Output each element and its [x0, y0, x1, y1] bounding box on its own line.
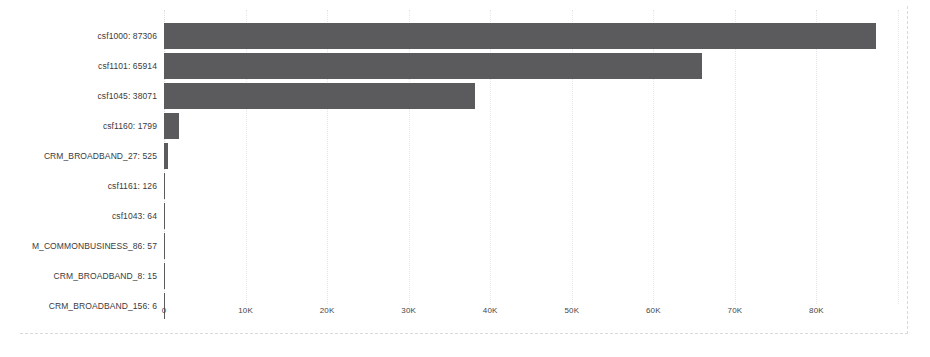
bar-row[interactable]: csf1101: 65914: [0, 53, 930, 79]
x-tick-label: 20K: [302, 306, 352, 315]
bar-label: csf1045: 38071: [0, 83, 157, 109]
x-tick-label: 70K: [710, 306, 760, 315]
bar[interactable]: [164, 173, 165, 199]
bar-label: csf1101: 65914: [0, 53, 157, 79]
bar-row[interactable]: CRM_BROADBAND_27: 525: [0, 143, 930, 169]
bar-row[interactable]: CRM_BROADBAND_8: 15: [0, 263, 930, 289]
x-tick-label: 60K: [628, 306, 678, 315]
bar-label: csf1000: 87306: [0, 23, 157, 49]
bar-chart-screenshot: csf1000: 87306csf1101: 65914csf1045: 380…: [0, 0, 930, 357]
bar-label: csf1043: 64: [0, 203, 157, 229]
bar-label: csf1160: 1799: [0, 113, 157, 139]
bar[interactable]: [164, 83, 475, 109]
bar-row[interactable]: M_COMMONBUSINESS_86: 57: [0, 233, 930, 259]
bar-row[interactable]: csf1161: 126: [0, 173, 930, 199]
x-tick-label: 30K: [384, 306, 434, 315]
bar-label: csf1161: 126: [0, 173, 157, 199]
bar-row[interactable]: csf1045: 38071: [0, 83, 930, 109]
bar-label: CRM_BROADBAND_27: 525: [0, 143, 157, 169]
bar-row[interactable]: csf1043: 64: [0, 203, 930, 229]
bar[interactable]: [164, 263, 165, 289]
x-tick-label: 80K: [791, 306, 841, 315]
bar[interactable]: [164, 113, 179, 139]
bar[interactable]: [164, 203, 165, 229]
bar-rows: csf1000: 87306csf1101: 65914csf1045: 380…: [0, 0, 930, 357]
x-tick-label: 10K: [221, 306, 271, 315]
bar[interactable]: [164, 53, 702, 79]
x-tick-label: 50K: [547, 306, 597, 315]
bar-row[interactable]: csf1000: 87306: [0, 23, 930, 49]
bar-label: CRM_BROADBAND_8: 15: [0, 263, 157, 289]
bar[interactable]: [164, 143, 168, 169]
x-axis-tick-labels: 010K20K30K40K50K60K70K80K: [0, 306, 930, 322]
bar-row[interactable]: csf1160: 1799: [0, 113, 930, 139]
bar-label: M_COMMONBUSINESS_86: 57: [0, 233, 157, 259]
x-tick-label: 0: [139, 306, 189, 315]
bar[interactable]: [164, 233, 165, 259]
x-tick-label: 40K: [465, 306, 515, 315]
bar[interactable]: [164, 23, 876, 49]
